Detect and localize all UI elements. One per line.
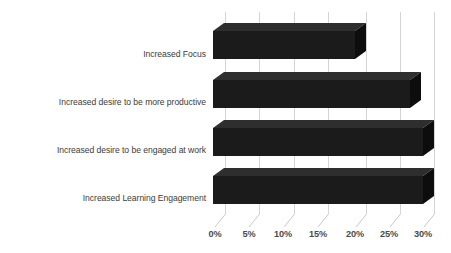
xtick-label-30: 30%	[405, 229, 441, 239]
xtick-label-15: 15%	[300, 229, 336, 239]
xtick-label-0: 0%	[198, 229, 232, 239]
xtick-label-20: 20%	[337, 229, 373, 239]
xtick-label-10: 10%	[265, 229, 301, 239]
xtick-label-5: 5%	[232, 229, 266, 239]
value-axis-labels: 0% 5% 10% 15% 20% 25% 30%	[0, 0, 451, 253]
xtick-label-25: 25%	[371, 229, 407, 239]
